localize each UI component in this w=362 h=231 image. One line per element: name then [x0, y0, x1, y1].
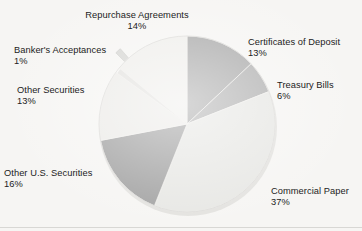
pie-label-repurchase-agreements: Repurchase Agreements 14%	[62, 10, 212, 33]
pie-label-bankers-acceptances-name: Banker's Acceptances	[14, 45, 132, 56]
pie-label-other-securities-name: Other Securities	[17, 85, 113, 96]
pie-label-other-securities-value: 13%	[17, 96, 113, 107]
pie-label-bankers-acceptances: Banker's Acceptances 1%	[14, 45, 132, 68]
pie-label-certificates-of-deposit-value: 13%	[248, 48, 360, 59]
pie-label-treasury-bills-name: Treasury Bills	[277, 80, 362, 91]
pie-label-repurchase-agreements-name: Repurchase Agreements	[62, 10, 212, 21]
pie-label-treasury-bills: Treasury Bills 6%	[277, 80, 362, 103]
pie-label-treasury-bills-value: 6%	[277, 91, 362, 102]
pie-chart-figure: Repurchase Agreements 14% Certificates o…	[0, 0, 362, 231]
pie-label-bankers-acceptances-value: 1%	[14, 56, 132, 67]
pie-label-other-us-securities-name: Other U.S. Securities	[4, 168, 114, 179]
pie-label-repurchase-agreements-value: 14%	[62, 21, 212, 32]
pie-label-certificates-of-deposit: Certificates of Deposit 13%	[248, 37, 360, 60]
pie-label-other-us-securities-value: 16%	[4, 179, 114, 190]
pie-label-certificates-of-deposit-name: Certificates of Deposit	[248, 37, 360, 48]
pie-label-other-securities: Other Securities 13%	[17, 85, 113, 108]
figure-bottom-rule	[0, 227, 362, 228]
pie-label-commercial-paper-value: 37%	[271, 197, 362, 208]
pie-label-commercial-paper-name: Commercial Paper	[271, 186, 362, 197]
pie-label-commercial-paper: Commercial Paper 37%	[271, 186, 362, 209]
pie-label-other-us-securities: Other U.S. Securities 16%	[4, 168, 114, 191]
